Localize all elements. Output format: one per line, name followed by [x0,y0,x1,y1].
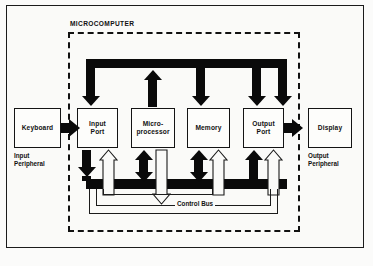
block-output-port-label: Output Port [252,120,275,136]
block-memory-label: Memory [195,124,221,132]
address-bus-arrowhead-microprocessor [144,70,162,80]
block-input-port-line1: Input [89,120,106,127]
address-bus-leg-output-port [252,59,261,96]
caption-output-peripheral-line1: Output [308,152,329,159]
control-bus-rail-inner [103,194,213,195]
control-bus-rail-mid-right [270,189,271,206]
block-display-label: Display [318,124,343,132]
figure-canvas: MICROCOMPUTER Keyboard Input Peripheral … [0,0,373,266]
caption-input-peripheral-line1: Input [14,152,29,159]
address-bus-arrowhead-output-port [248,96,266,106]
block-display[interactable]: Display [308,108,352,148]
control-bus-arrow-output-port [265,150,285,195]
data-bus-arrowhead-microprocessor-down [135,172,153,182]
block-input-port-line2: Port [91,128,105,135]
microcomputer-boundary-label: MICROCOMPUTER [70,20,134,27]
control-bus-arrow-microprocessor [153,150,173,206]
control-bus-rail-outer [89,213,278,214]
block-memory[interactable]: Memory [187,108,230,148]
address-bus-leg-memory [196,59,205,96]
address-bus-leg-microprocessor [148,80,157,107]
address-bus-arrowhead-right [274,96,292,106]
address-bus-leg-input-port [86,59,95,96]
block-keyboard-label: Keyboard [22,124,54,132]
block-output-port-line2: Port [257,128,271,135]
control-bus-rail-outer-right [277,189,278,214]
block-microprocessor-label: Micro- processor [136,120,169,136]
block-microprocessor-line2: processor [136,128,169,135]
data-bus-leg-input-port [82,150,91,167]
data-bus-arrowhead-microprocessor-up [135,150,153,160]
caption-output-peripheral-line2: Peripheral [308,160,339,167]
caption-output-peripheral: Output Peripheral [308,152,339,168]
caption-input-peripheral-line2: Peripheral [14,160,45,167]
control-bus-rail-inner-left [103,189,104,195]
data-bus-riser-input-port [82,176,91,181]
block-input-port[interactable]: Input Port [77,108,118,148]
block-microprocessor[interactable]: Micro- processor [131,108,175,148]
keyboard-to-input-port-arrowhead [69,119,80,137]
data-bus-arrowhead-memory-up [190,150,208,160]
caption-input-peripheral: Input Peripheral [14,152,45,168]
data-bus-arrowhead-output-port [245,150,263,160]
control-bus-label: Control Bus [175,200,215,207]
output-port-to-display-arrowhead [292,119,303,137]
address-bus-arrowhead-memory [192,96,210,106]
address-bus-arrowhead-input-port [82,96,100,106]
block-keyboard[interactable]: Keyboard [14,108,61,148]
control-bus-rail-mid-left [96,189,97,206]
data-bus-arrowhead-memory-down [190,172,208,182]
block-output-port[interactable]: Output Port [243,108,284,148]
block-output-port-line1: Output [252,120,275,127]
control-bus-arrow-memory [210,150,230,195]
block-microprocessor-line1: Micro- [143,120,164,127]
data-bus-leg-microprocessor [139,159,148,172]
control-bus-rail-inner-right [212,189,213,195]
address-bus-leg-right [278,59,287,96]
block-input-port-label: Input Port [89,120,106,136]
data-bus-leg-memory [194,159,203,172]
data-bus-leg-output-port [249,159,258,181]
control-bus-rail-outer-left [89,189,90,214]
